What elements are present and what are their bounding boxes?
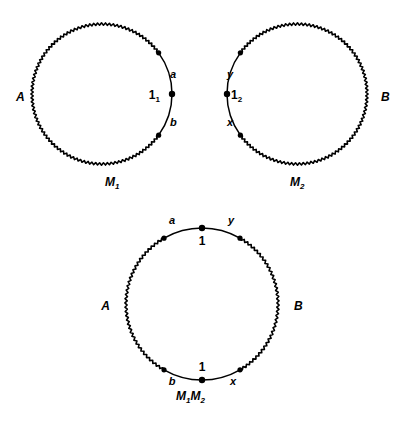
circle-caption-M2: M2 <box>290 175 305 191</box>
label-b-M1: b <box>170 116 177 128</box>
label-a-M1M2: a <box>169 214 175 226</box>
label-y-M1M2: y <box>227 214 235 226</box>
label-x-M1M2: x <box>229 375 237 387</box>
circle-jagged-arc-M1M2-1 <box>125 238 165 371</box>
marked-point-label-M2-identity-point: 12 <box>231 88 243 104</box>
arc-endpoint-dot-M1M2-top-arc-endpoint-left <box>161 236 166 241</box>
marked-point-dot-M1M2-identity-point-top <box>199 225 205 231</box>
circle-jagged-arc-M2-0 <box>239 23 368 165</box>
circle-group-M1M2: 11ABaybxM1M2 <box>100 214 303 405</box>
circle-caption-M1M2: M1M2 <box>176 389 205 405</box>
diagram-canvas: 11AabM112ByxM211ABaybxM1M2 <box>0 0 398 425</box>
marked-point-label-M1M2-identity-point-top: 1 <box>199 234 206 248</box>
circle-diagram-figure: 11AabM112ByxM211ABaybxM1M2 <box>0 0 398 425</box>
marked-point-label-M1-identity-point: 11 <box>149 88 161 104</box>
label-B-M2: B <box>381 90 390 104</box>
arc-endpoint-dot-M2-arc-endpoint-upper <box>238 50 243 55</box>
circle-jagged-arc-M1M2-0 <box>239 237 279 370</box>
label-A-M1: A <box>15 90 25 104</box>
label-a-M1: a <box>170 68 176 80</box>
label-B-M1M2: B <box>294 299 303 313</box>
arc-endpoint-dot-M2-arc-endpoint-lower <box>238 133 243 138</box>
marked-point-dot-M1-identity-point <box>169 91 175 97</box>
arc-endpoint-dot-M1-arc-endpoint-upper <box>156 50 161 55</box>
marked-point-dot-M2-identity-point <box>224 91 230 97</box>
arc-endpoint-dot-M1M2-bottom-arc-endpoint-left <box>161 367 166 372</box>
label-x-M2: x <box>226 116 234 128</box>
circle-caption-M1: M1 <box>105 175 120 191</box>
label-y-M2: y <box>226 68 234 80</box>
circle-group-M1: 11AabM1 <box>15 23 177 191</box>
arc-endpoint-dot-M1M2-bottom-arc-endpoint-right <box>237 367 242 372</box>
arc-endpoint-dot-M1-arc-endpoint-lower <box>156 133 161 138</box>
arc-endpoint-dot-M1M2-top-arc-endpoint-right <box>237 236 242 241</box>
marked-point-label-M1M2-identity-point-bottom: 1 <box>199 360 206 374</box>
label-A-M1M2: A <box>100 299 110 313</box>
circle-jagged-arc-M1-0 <box>31 23 160 165</box>
circle-group-M2: 12ByxM2 <box>224 23 390 191</box>
label-b-M1M2: b <box>169 375 176 387</box>
marked-point-dot-M1M2-identity-point-bottom <box>199 377 205 383</box>
